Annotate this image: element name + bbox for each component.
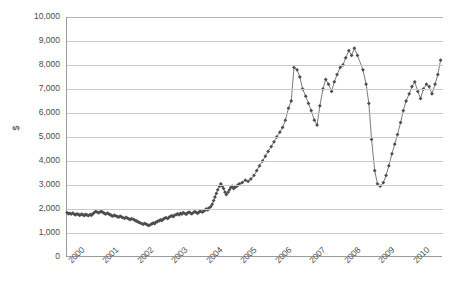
data-point-marker	[373, 169, 377, 173]
chart-container: $ 10,0009,0008,0007,0006,0005,0004,0003,…	[0, 0, 457, 307]
y-tick-label: 1,000	[14, 228, 60, 237]
y-tick-label: 7,000	[14, 84, 60, 93]
data-point-marker	[213, 195, 217, 199]
data-point-marker	[399, 121, 403, 125]
data-point-marker	[214, 192, 218, 196]
data-point-marker	[307, 102, 311, 106]
data-point-marker	[433, 82, 437, 86]
data-point-marker	[289, 99, 293, 103]
y-tick-label: 4,000	[14, 156, 60, 165]
data-point-marker	[356, 54, 360, 58]
data-point-marker	[335, 73, 339, 77]
data-point-marker	[390, 152, 394, 156]
y-tick-label: 10,000	[14, 12, 60, 21]
y-tick-label: 3,000	[14, 180, 60, 189]
data-point-marker	[350, 54, 354, 58]
data-point-marker	[263, 154, 267, 158]
y-tick-label: 5,000	[14, 132, 60, 141]
x-axis-tick-labels: 2000200120022003200420052006200720082009…	[66, 258, 446, 307]
y-tick-label: 0	[14, 252, 60, 261]
data-point-marker	[419, 97, 423, 101]
data-point-marker	[281, 126, 285, 130]
data-point-marker	[352, 46, 356, 50]
data-point-marker	[283, 118, 287, 122]
data-point-marker	[347, 49, 351, 53]
data-point-marker	[370, 138, 374, 142]
data-point-marker	[312, 118, 316, 122]
y-axis-tick-labels: 10,0009,0008,0007,0006,0005,0004,0003,00…	[12, 0, 60, 307]
data-point-marker	[384, 174, 388, 178]
data-point-marker	[387, 164, 391, 168]
plot-area	[66, 17, 442, 257]
data-point-marker	[396, 133, 400, 137]
data-point-marker	[401, 109, 405, 113]
data-point-marker	[216, 188, 220, 192]
data-point-marker	[324, 78, 328, 82]
data-point-marker	[318, 104, 322, 108]
data-point-marker	[393, 142, 397, 146]
data-point-marker	[272, 140, 276, 144]
y-tick-label: 2,000	[14, 204, 60, 213]
data-point-marker	[298, 75, 302, 79]
data-point-marker	[309, 109, 313, 113]
y-tick-label: 8,000	[14, 60, 60, 69]
data-point-marker	[327, 82, 331, 86]
data-point-marker	[436, 73, 440, 77]
gridline	[67, 89, 443, 90]
data-point-marker	[407, 92, 411, 96]
y-tick-label: 9,000	[14, 36, 60, 45]
data-point-marker	[367, 102, 371, 106]
data-point-marker	[364, 82, 368, 86]
y-tick-label: 6,000	[14, 108, 60, 117]
gridline	[67, 137, 443, 138]
gridline	[67, 113, 443, 114]
data-point-marker	[255, 169, 259, 173]
data-point-marker	[439, 58, 443, 62]
gridline	[67, 17, 443, 18]
data-point-marker	[410, 85, 414, 89]
gridline	[67, 209, 443, 210]
gridline	[67, 233, 443, 234]
data-point-marker	[332, 80, 336, 84]
data-point-marker	[330, 90, 334, 94]
data-point-marker	[287, 106, 291, 110]
data-point-marker	[304, 94, 308, 98]
data-point-marker	[416, 90, 420, 94]
data-point-marker	[315, 123, 319, 127]
data-point-marker	[212, 199, 216, 203]
data-point-marker	[404, 99, 408, 103]
data-point-marker	[430, 92, 434, 96]
data-point-marker	[344, 56, 348, 60]
gridline	[67, 161, 443, 162]
data-point-marker	[413, 80, 417, 84]
data-point-marker	[361, 68, 365, 72]
gridline	[67, 185, 443, 186]
gridline	[67, 65, 443, 66]
gridline	[67, 41, 443, 42]
